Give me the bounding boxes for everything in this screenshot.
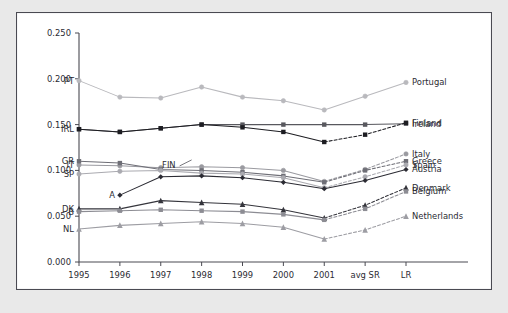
series-left-label: A <box>109 190 115 200</box>
series-left-label: PT <box>64 76 75 86</box>
data-point <box>404 163 408 167</box>
series-line-solid <box>120 176 324 195</box>
x-tick-label: 2001 <box>314 270 335 280</box>
x-tick-label: avg SR <box>351 270 380 280</box>
series-left-label: SP <box>64 169 74 179</box>
series-left-label: GR <box>62 156 74 166</box>
series-left-label: IRL <box>61 124 74 134</box>
data-point <box>240 95 244 99</box>
data-point <box>77 159 81 163</box>
x-tick-label: 1995 <box>68 270 89 280</box>
data-point <box>322 122 326 126</box>
series-line-solid <box>79 125 324 142</box>
data-point <box>159 208 163 212</box>
axis-lines <box>79 33 468 262</box>
data-point <box>403 213 409 219</box>
data-point <box>322 218 326 222</box>
data-point <box>404 189 408 193</box>
data-point <box>363 122 367 126</box>
data-point <box>240 165 244 169</box>
data-point <box>322 108 326 112</box>
data-point <box>117 193 122 198</box>
data-point <box>240 175 245 180</box>
data-point <box>281 212 285 216</box>
y-tick-label: 0.250 <box>47 28 71 38</box>
data-point <box>118 209 122 213</box>
series-netherlands: NLNetherlands <box>63 211 463 242</box>
line-chart-svg: 0.0000.0500.1000.1500.2000.2501995199619… <box>16 12 492 290</box>
data-point <box>77 78 81 82</box>
annotation-leader-line <box>180 160 192 166</box>
data-point <box>77 127 81 131</box>
data-point <box>363 178 368 183</box>
data-point <box>404 80 408 84</box>
data-point <box>118 95 122 99</box>
data-point <box>240 125 244 129</box>
annotation-label: FIN <box>162 160 176 170</box>
series-left-label: B <box>68 207 74 217</box>
data-point <box>77 209 81 213</box>
data-point <box>159 126 163 130</box>
data-point <box>363 132 367 136</box>
x-tick-label: 2000 <box>273 270 294 280</box>
x-tick-label: 1998 <box>191 270 212 280</box>
data-point <box>158 174 163 179</box>
chart-figure: 0.0000.0500.1000.1500.2000.2501995199619… <box>16 12 492 290</box>
series-right-label: Netherlands <box>412 211 463 221</box>
x-tick-label: 1997 <box>150 270 171 280</box>
series-portugal: PTPortugal <box>64 76 447 113</box>
data-point <box>199 122 203 126</box>
annotation-fin: FIN <box>162 160 192 170</box>
series-right-label: Belgium <box>412 186 446 196</box>
data-point <box>281 180 286 185</box>
data-point <box>404 152 408 156</box>
data-point <box>281 130 285 134</box>
data-point <box>118 169 122 173</box>
data-point <box>403 167 408 172</box>
y-tick-label: 0.000 <box>47 257 71 267</box>
data-point <box>199 209 203 213</box>
x-tick-label: 1996 <box>109 270 130 280</box>
data-point <box>118 130 122 134</box>
data-point <box>281 122 285 126</box>
data-point <box>363 168 367 172</box>
series-right-label: Finland <box>412 118 442 128</box>
data-point <box>363 207 367 211</box>
series-denmark: DKDenmark <box>62 183 451 221</box>
data-point <box>77 172 81 176</box>
data-point <box>199 85 203 89</box>
series-left-label: NL <box>63 224 74 234</box>
data-point <box>281 168 285 172</box>
data-point <box>240 209 244 213</box>
data-point <box>362 227 368 233</box>
data-point <box>281 99 285 103</box>
data-point <box>322 180 326 184</box>
x-tick-label: LR <box>401 270 412 280</box>
series-belgium: BBelgium <box>68 186 446 222</box>
data-point <box>322 140 326 144</box>
data-point <box>281 176 285 180</box>
data-point <box>159 96 163 100</box>
data-point <box>118 161 122 165</box>
series-finland: Finland <box>77 118 442 144</box>
data-point <box>404 121 408 125</box>
series-right-label: Austria <box>412 164 442 174</box>
series-right-label: Portugal <box>412 77 447 87</box>
data-point <box>363 94 367 98</box>
x-tick-label: 1999 <box>232 270 253 280</box>
